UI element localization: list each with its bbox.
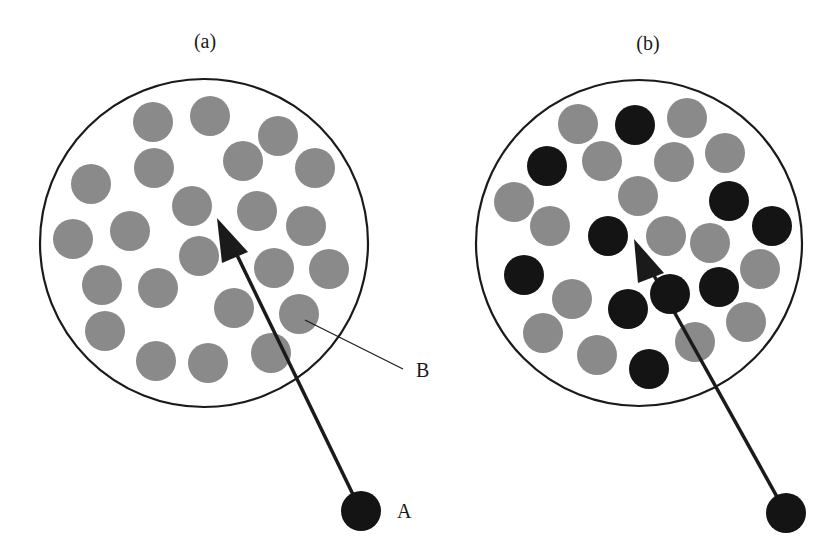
black-particle (699, 267, 739, 307)
gray-particle (286, 206, 326, 246)
black-particle (588, 216, 628, 256)
gray-particle (188, 343, 228, 383)
panel-b-overlay-particles (650, 274, 690, 314)
gray-particle (179, 236, 219, 276)
panel-b-label: (b) (636, 32, 659, 55)
gray-particle (254, 248, 294, 288)
gray-particle (552, 279, 592, 319)
gray-particle (136, 341, 176, 381)
gray-particle (134, 148, 174, 188)
gray-particle (71, 164, 111, 204)
gray-particle (654, 142, 694, 182)
gray-particle (295, 148, 335, 188)
black-particle (629, 349, 669, 389)
gray-particle (667, 98, 707, 138)
gray-particle (558, 104, 598, 144)
gray-particle (133, 102, 173, 142)
gray-particle (190, 96, 230, 136)
gray-particle (646, 216, 686, 256)
black-particle (608, 289, 648, 329)
gray-particle (138, 268, 178, 308)
gray-particle (258, 116, 298, 156)
panel-a-label: (a) (194, 30, 216, 53)
panel-b-projectile (766, 493, 806, 533)
panel-a-projectile-label-a: A (397, 500, 412, 522)
gray-particle (110, 211, 150, 251)
gray-particle (214, 288, 254, 328)
gray-particle (523, 313, 563, 353)
black-particle (527, 146, 567, 186)
gray-particle (53, 219, 93, 259)
black-particle (615, 105, 655, 145)
gray-particle (740, 249, 780, 289)
black-particle (752, 206, 792, 246)
gray-particle (690, 223, 730, 263)
gray-particle (223, 141, 263, 181)
black-particle (650, 274, 690, 314)
gray-particle (279, 294, 319, 334)
gray-particle (82, 265, 122, 305)
gray-particle (494, 182, 534, 222)
gray-particle (309, 249, 349, 289)
panel-a-projectile-a (341, 491, 381, 531)
gray-particle (726, 302, 766, 342)
gray-particle (577, 335, 617, 375)
gray-particle (675, 322, 715, 362)
gray-particle (172, 186, 212, 226)
particle-collision-figure: (a) B A (b) (0, 0, 837, 560)
gray-particle (530, 206, 570, 246)
black-particle (504, 255, 544, 295)
black-particle (709, 181, 749, 221)
panel-a-callout-label-b: B (416, 359, 429, 381)
gray-particle (582, 141, 622, 181)
gray-particle (705, 133, 745, 173)
gray-particle (237, 191, 277, 231)
gray-particle (618, 176, 658, 216)
gray-particle (85, 311, 125, 351)
